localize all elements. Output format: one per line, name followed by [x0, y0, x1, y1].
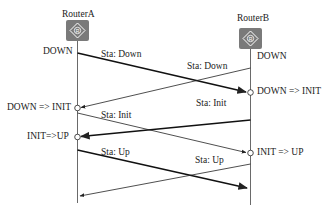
- msg-label-b-init: Sta: Init: [196, 99, 226, 109]
- state-b-initial: DOWN: [257, 52, 287, 62]
- msg-label-a-init: Sta: Init: [101, 111, 131, 121]
- msg-label-a-up: Sta: Up: [101, 148, 130, 158]
- state-circle-a-init: [75, 105, 81, 111]
- router-a-icon: R: [66, 20, 89, 41]
- state-a-transition-2: INIT=>UP: [27, 132, 69, 142]
- router-a-label: RouterA: [62, 10, 95, 20]
- router-b-label: RouterB: [237, 14, 269, 24]
- state-circle-b-up: [248, 150, 254, 156]
- state-b-transition-2: INIT => UP: [257, 148, 303, 158]
- svg-text:R: R: [249, 36, 253, 42]
- msg-label-b-up: Sta: Up: [195, 156, 224, 166]
- state-b-transition-1: DOWN => INIT: [257, 87, 321, 97]
- state-a-transition-1: DOWN => INIT: [7, 103, 71, 113]
- router-b-icon: R: [239, 28, 262, 49]
- svg-text:R: R: [76, 28, 80, 34]
- msg-label-a-down: Sta: Down: [101, 50, 141, 60]
- msg-b-to-a-up: [80, 164, 251, 196]
- state-circle-a-up: [75, 134, 81, 140]
- state-circle-b-init: [248, 90, 254, 96]
- state-a-initial: DOWN: [43, 47, 73, 57]
- msg-label-b-down: Sta: Down: [187, 62, 227, 72]
